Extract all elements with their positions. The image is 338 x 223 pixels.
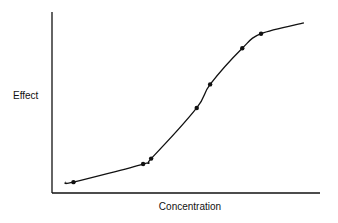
data-points — [71, 32, 263, 185]
y-axis-label: Effect — [13, 90, 38, 101]
data-point-marker — [71, 180, 75, 184]
data-point-marker — [141, 162, 145, 166]
data-point-marker — [149, 156, 153, 160]
data-point-marker — [195, 106, 199, 110]
data-point-marker — [240, 46, 244, 50]
data-point-marker — [259, 32, 263, 36]
chart-plot — [0, 0, 338, 223]
sigmoid-curve — [65, 23, 304, 184]
data-point-marker — [208, 82, 212, 86]
x-axis-label: Concentration — [0, 201, 338, 212]
